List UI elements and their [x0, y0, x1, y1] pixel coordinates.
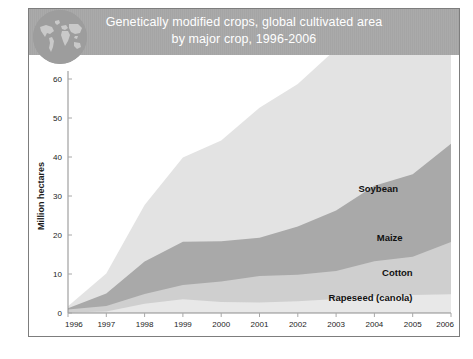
x-tick-label-2004: 2004 — [366, 320, 384, 329]
chart-title-line-2: by major crop, 1996-2006 — [29, 31, 459, 48]
series-label-rapeseed-canola: Rapeseed (canola) — [329, 292, 413, 303]
y-axis-title: Million hectares — [36, 162, 46, 230]
x-tick-label-1999: 1999 — [174, 320, 192, 329]
x-tick-label-1997: 1997 — [97, 320, 115, 329]
y-axis-title-group: Million hectares — [36, 162, 46, 230]
y-tick-label-30: 30 — [53, 192, 62, 201]
plot-area: 0102030405060199619971998199920002001200… — [29, 55, 459, 337]
chart-header-band: Genetically modified crops, global culti… — [29, 9, 459, 55]
x-tick-label-2001: 2001 — [251, 320, 269, 329]
x-tick-label-2005: 2005 — [404, 320, 422, 329]
x-tick-label-1998: 1998 — [136, 320, 154, 329]
series-label-cotton: Cotton — [382, 267, 413, 278]
y-tick-label-50: 50 — [53, 114, 62, 123]
x-tick-label-2003: 2003 — [327, 320, 345, 329]
series-label-maize: Maize — [377, 232, 403, 243]
chart-title: Genetically modified crops, global culti… — [29, 14, 459, 48]
area-chart-svg: 0102030405060199619971998199920002001200… — [29, 55, 459, 337]
x-tick-label-2002: 2002 — [289, 320, 307, 329]
y-tick-label-40: 40 — [53, 153, 62, 162]
figure-canvas: Genetically modified crops, global culti… — [0, 0, 473, 359]
x-tick-label-2000: 2000 — [212, 320, 230, 329]
globe-world-map-icon — [33, 10, 87, 64]
y-tick-label-0: 0 — [58, 309, 63, 318]
series-label-soybean: Soybean — [358, 183, 398, 194]
x-tick-label-2006: 2006 — [436, 320, 454, 329]
x-tick-label-1996: 1996 — [65, 320, 83, 329]
y-tick-label-20: 20 — [53, 231, 62, 240]
y-tick-label-60: 60 — [53, 75, 62, 84]
chart-title-line-1: Genetically modified crops, global culti… — [29, 14, 459, 31]
y-tick-label-10: 10 — [53, 270, 62, 279]
